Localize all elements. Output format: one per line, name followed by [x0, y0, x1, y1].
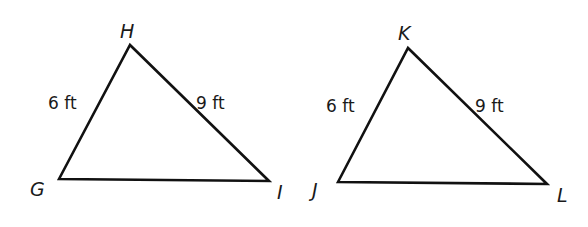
diagram-canvas: H G I 6 ft 9 ft K J L 6 ft 9 ft	[0, 0, 588, 227]
vertex-label-j: J	[308, 179, 318, 201]
triangle-jkl: K J L 6 ft 9 ft	[308, 22, 568, 206]
vertex-label-g: G	[30, 178, 45, 200]
vertex-label-l: L	[557, 184, 568, 206]
triangle-ghi-outline	[59, 45, 269, 181]
vertex-label-k: K	[398, 22, 412, 44]
vertex-label-h: H	[120, 20, 134, 42]
triangle-ghi: H G I 6 ft 9 ft	[30, 20, 283, 203]
triangle-jkl-outline	[338, 48, 547, 184]
vertex-label-i: I	[277, 181, 283, 203]
side-label-jk: 6 ft	[326, 96, 355, 116]
triangles-figure: H G I 6 ft 9 ft K J L 6 ft 9 ft	[0, 0, 588, 227]
side-label-hi: 9 ft	[196, 93, 225, 113]
side-label-kl: 9 ft	[475, 96, 504, 116]
side-label-gh: 6 ft	[48, 93, 77, 113]
